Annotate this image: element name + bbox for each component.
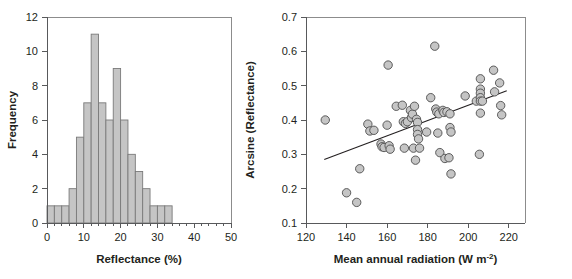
scatter-x-tick-label: 160 <box>378 231 396 243</box>
histogram-bar <box>76 137 83 223</box>
histogram-bars <box>47 34 172 223</box>
scatter-point <box>434 129 442 137</box>
histogram-bar <box>54 206 61 223</box>
figure-container: 01020304050024681012Reflectance (%)Frequ… <box>0 0 572 279</box>
histogram-bar <box>91 34 98 223</box>
scatter-x-ticks: 120140160180200220 <box>297 223 518 243</box>
histogram-x-tick-label: 50 <box>225 231 237 243</box>
scatter-y-tick-label: 0.5 <box>282 80 297 92</box>
scatter-point <box>446 110 454 118</box>
scatter-point <box>400 144 408 152</box>
scatter-y-axis-title: Arcsine (Reflectance) <box>244 61 256 179</box>
histogram-bar <box>128 154 135 223</box>
histogram-bar <box>99 103 106 223</box>
histogram-bar <box>62 206 69 223</box>
scatter-point <box>497 111 505 119</box>
scatter-point <box>496 101 504 109</box>
histogram-y-tick-label: 4 <box>32 148 38 160</box>
scatter-point <box>447 128 455 136</box>
histogram-bar <box>165 206 172 223</box>
scatter-x-tick-label: 120 <box>297 231 315 243</box>
histogram-bar <box>113 69 120 224</box>
scatter-point <box>476 109 484 117</box>
histogram-x-ticks: 01020304050 <box>44 223 237 243</box>
scatter-point <box>490 88 498 96</box>
scatter-point <box>414 135 422 143</box>
scatter-point <box>415 144 423 152</box>
scatter-y-tick-label: 0.4 <box>282 114 297 126</box>
scatter-point <box>476 75 484 83</box>
histogram-bar <box>135 172 142 224</box>
histogram-x-tick-label: 30 <box>151 231 163 243</box>
scatter-y-tick-label: 0.2 <box>282 183 297 195</box>
histogram-bar <box>69 189 76 223</box>
scatter-y-ticks: 0.10.20.30.40.50.60.7 <box>282 11 306 229</box>
scatter-point <box>383 121 391 129</box>
scatter-point <box>386 145 394 153</box>
scatter-point <box>370 126 378 134</box>
scatter-point <box>447 170 455 178</box>
scatter-point <box>461 92 469 100</box>
histogram-bar <box>47 206 54 223</box>
scatter-point <box>384 61 392 69</box>
histogram-x-tick-label: 0 <box>44 231 50 243</box>
histogram-bar <box>121 120 128 223</box>
scatter-point <box>422 128 430 136</box>
scatter-point <box>431 42 439 50</box>
scatter-x-tick-label: 180 <box>418 231 436 243</box>
scatter-point <box>445 154 453 162</box>
scatter-point <box>489 66 497 74</box>
histogram-y-tick-label: 12 <box>26 11 38 23</box>
histogram-x-axis-title: Reflectance (%) <box>96 253 182 265</box>
scatter-y-tick-label: 0.3 <box>282 148 297 160</box>
histogram-y-tick-label: 0 <box>32 217 38 229</box>
scatter-x-tick-label: 140 <box>337 231 355 243</box>
histogram-y-axis-title: Frequency <box>6 90 18 149</box>
histogram-bar <box>84 103 91 223</box>
scatter-point <box>475 150 483 158</box>
scatter-x-axis-title: Mean annual radiation (W m-2) <box>334 252 498 265</box>
scatter-y-tick-label: 0.6 <box>282 45 297 57</box>
scatter-y-tick-label: 0.7 <box>282 11 297 23</box>
scatter-points <box>321 42 506 207</box>
scatter-x-tick-label: 220 <box>500 231 518 243</box>
scatter-point <box>352 198 360 206</box>
histogram-y-tick-label: 2 <box>32 183 38 195</box>
scatter-point <box>342 189 350 197</box>
scatter-panel: 1201401601802002200.10.20.30.40.50.60.7M… <box>286 0 572 279</box>
histogram-x-tick-label: 20 <box>114 231 126 243</box>
scatter-x-tick-label: 200 <box>459 231 477 243</box>
scatter-point <box>411 156 419 164</box>
scatter-plot: 1201401601802002200.10.20.30.40.50.60.7M… <box>240 0 572 279</box>
histogram-bar <box>157 206 164 223</box>
histogram-x-tick-label: 10 <box>78 231 90 243</box>
scatter-point <box>410 102 418 110</box>
histogram-y-tick-label: 10 <box>26 45 38 57</box>
histogram-y-tick-label: 8 <box>32 80 38 92</box>
scatter-y-tick-label: 0.1 <box>282 217 297 229</box>
histogram-y-tick-label: 6 <box>32 114 38 126</box>
scatter-point <box>398 101 406 109</box>
scatter-point <box>321 116 329 124</box>
scatter-point <box>356 165 364 173</box>
histogram-x-tick-label: 40 <box>188 231 200 243</box>
histogram-bar <box>150 206 157 223</box>
histogram-bar <box>143 189 150 223</box>
histogram-y-ticks: 024681012 <box>26 11 47 229</box>
scatter-point <box>495 79 503 87</box>
scatter-point <box>427 93 435 101</box>
histogram-bar <box>106 120 113 223</box>
scatter-point <box>478 97 486 105</box>
